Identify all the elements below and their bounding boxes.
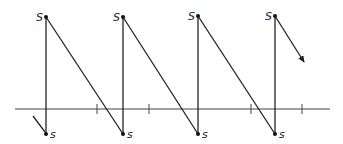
lower-label: s <box>127 128 133 141</box>
upper-label: S <box>188 10 195 23</box>
lead-in-segment <box>33 116 45 132</box>
depletion-arrow <box>275 16 304 62</box>
order-jump-4 <box>275 16 304 134</box>
lower-label: s <box>279 128 285 141</box>
upper-label: S <box>265 10 272 23</box>
upper-label: S <box>36 11 43 24</box>
order-jump-1 <box>46 17 123 134</box>
lower-label: s <box>202 128 208 141</box>
upper-label: S <box>113 11 120 24</box>
order-jump-2 <box>123 17 198 134</box>
sawtooth-diagram: S s S s S s S s <box>0 0 343 144</box>
lower-label: s <box>50 128 56 141</box>
order-jump-3 <box>198 16 275 134</box>
